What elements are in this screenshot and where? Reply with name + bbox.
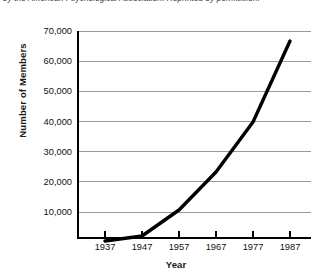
chart-svg (77, 9, 311, 249)
x-tick-label: 1987 (280, 242, 301, 252)
x-tick-label: 1977 (243, 242, 264, 252)
x-tick-label: 1957 (169, 242, 190, 252)
y-tick-label: 50,000 (44, 86, 72, 96)
x-tick-label: 1967 (206, 242, 227, 252)
y-tick-label: 40,000 (44, 117, 72, 127)
plot-area (77, 9, 311, 239)
source-caption-text: by the American Psychological Associatio… (3, 0, 260, 3)
y-axis-tick-labels: 10,000 20,000 30,000 40,000 50,000 60,00… (14, 9, 76, 249)
y-tick-label: 20,000 (44, 177, 72, 187)
gridlines (77, 31, 311, 212)
line-chart-figure: Number of Members 10,000 20,000 30,000 4… (0, 9, 332, 278)
x-axis-title: Year (96, 259, 256, 270)
x-axis-tick-labels: 1937 1947 1957 1967 1977 1987 (77, 242, 311, 258)
x-tick-label: 1947 (132, 242, 153, 252)
y-tick-label: 70,000 (44, 26, 72, 36)
y-tick-label: 60,000 (44, 56, 72, 66)
y-tick-label: 10,000 (44, 207, 72, 217)
x-tick-label: 1937 (95, 242, 116, 252)
data-line-number-of-members (105, 41, 290, 241)
source-caption: by the American Psychological Associatio… (0, 0, 332, 9)
y-tick-label: 30,000 (44, 147, 72, 157)
